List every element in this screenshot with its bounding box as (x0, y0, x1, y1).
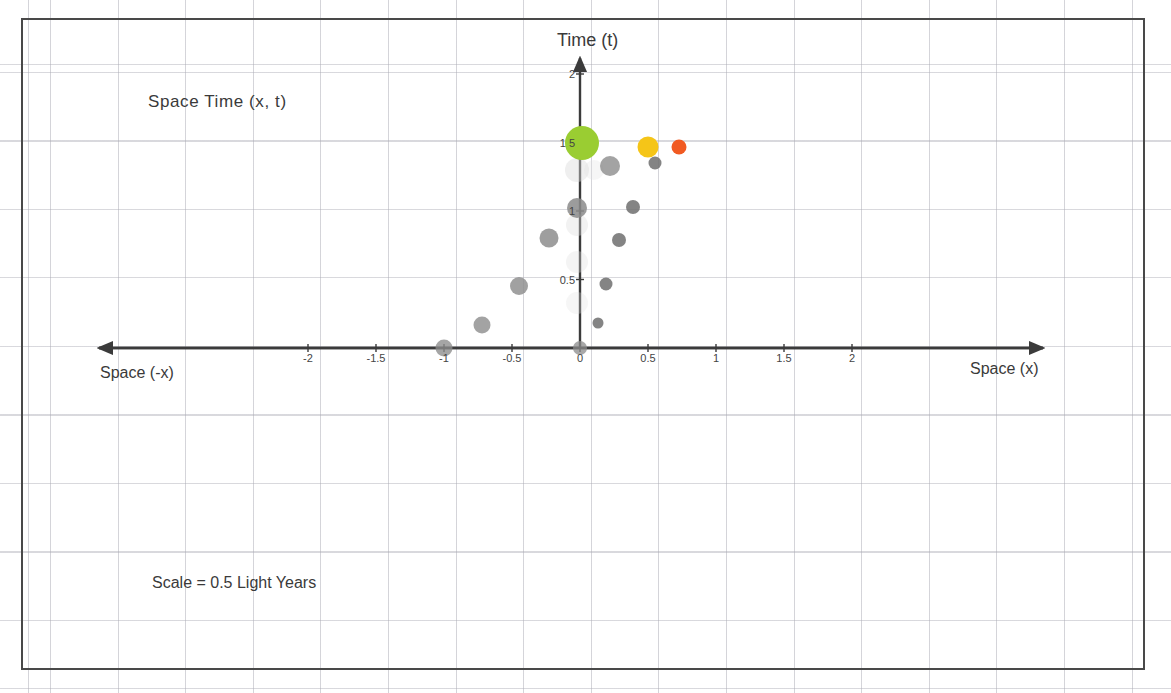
y-tick-label: 2 (569, 68, 575, 80)
data-point-right-arm-grey (600, 156, 620, 176)
y-axis-label: Time (t) (557, 30, 618, 51)
x-tick-label: -0.5 (503, 352, 522, 364)
x-tick-label: 0.5 (640, 352, 655, 364)
data-point-yellow (638, 136, 659, 157)
x-tick-label: 2 (849, 352, 855, 364)
x-tick-label: -2 (303, 352, 313, 364)
y-tick-label: 0.5 (560, 274, 575, 286)
data-point-right-arm-grey (648, 157, 661, 170)
spacetime-diagram-page: -2-1.5-1-0.500.511.520.511 52 Space Time… (0, 0, 1171, 693)
data-point-ghost-column-faint (566, 251, 588, 273)
y-tick-label: 1 5 (560, 137, 575, 149)
x-tick-label: -1.5 (367, 352, 386, 364)
data-point-right-arm-grey (599, 277, 612, 290)
data-point-right-arm-grey (612, 233, 626, 247)
x-axis-label-right: Space (x) (970, 360, 1038, 378)
x-tick-label: 0 (577, 352, 583, 364)
scale-note: Scale = 0.5 Light Years (152, 574, 316, 592)
x-tick-label: -1 (439, 352, 449, 364)
data-point-left-arm-grey (510, 277, 528, 295)
y-tick-label: 1 (569, 205, 575, 217)
data-point-orange (672, 139, 687, 154)
x-tick-label: 1 (713, 352, 719, 364)
data-point-right-arm-grey (592, 318, 603, 329)
data-point-left-arm-grey (539, 229, 558, 248)
page-title: Space Time (x, t) (148, 92, 287, 112)
data-point-ghost-column-faint (566, 292, 588, 314)
data-point-right-arm-grey (626, 200, 640, 214)
data-point-left-arm-grey (474, 316, 491, 333)
x-axis-label-left: Space (-x) (100, 364, 174, 382)
x-tick-label: 1.5 (776, 352, 791, 364)
